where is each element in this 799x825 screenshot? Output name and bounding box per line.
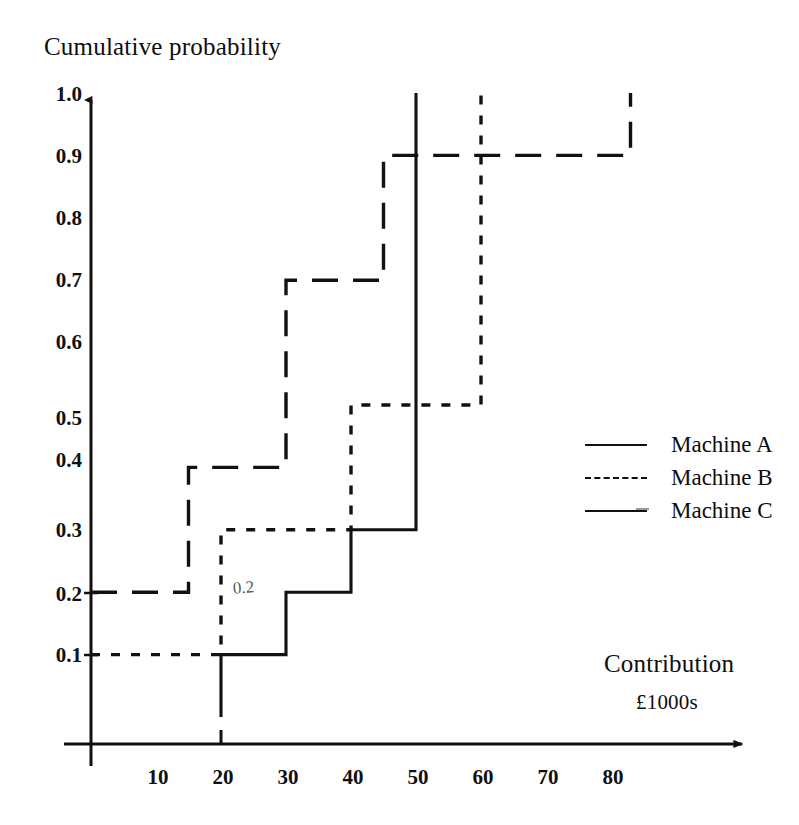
legend: Machine A Machine B Machine C [583, 428, 793, 527]
cumulative-probability-chart: Cumulative probability Contribution £100… [0, 0, 799, 825]
legend-label-machine-c: Machine C [671, 498, 773, 524]
legend-item-machine-b[interactable]: Machine B [583, 461, 793, 494]
plot-area [0, 0, 799, 825]
legend-swatch-solid-tail [583, 504, 649, 518]
legend-swatch-solid [583, 438, 649, 452]
legend-label-machine-a: Machine A [671, 432, 773, 458]
legend-item-machine-c[interactable]: Machine C [583, 494, 793, 527]
series-machine-c [91, 93, 631, 592]
legend-label-machine-b: Machine B [671, 465, 773, 491]
legend-swatch-dotted [583, 471, 649, 485]
legend-item-machine-a[interactable]: Machine A [583, 428, 793, 461]
